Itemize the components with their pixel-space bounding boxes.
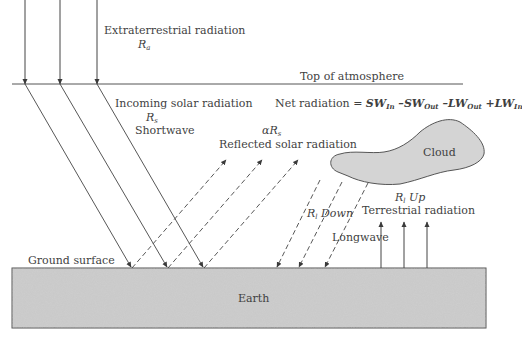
shortwave-label: Shortwave — [135, 124, 195, 137]
reflected-solar-arrows — [132, 160, 298, 268]
top-of-atmosphere-label: Top of atmosphere — [300, 70, 404, 83]
terrestrial-label: Terrestrial radiation — [362, 204, 475, 217]
extraterrestrial-arrows — [25, 0, 97, 84]
incoming-solar-label: Incoming solar radiation — [115, 97, 252, 110]
cloud-label: Cloud — [423, 146, 456, 159]
ground-surface-label: Ground surface — [28, 254, 115, 267]
cloud-shape — [331, 120, 484, 185]
extraterrestrial-label: Extraterrestrial radiation — [104, 24, 245, 37]
earth-label: Earth — [238, 292, 269, 305]
ra-symbol: Ra — [138, 38, 150, 55]
terrestrial-up-arrows — [381, 222, 427, 268]
net-radiation-equation: Net radiation = SWIn –SWOut –LWOut +LWIn — [275, 97, 522, 113]
incoming-solar-arrows — [25, 84, 203, 267]
rl-down-label: Rl Down — [307, 207, 353, 224]
longwave-label: Longwave — [332, 231, 389, 244]
reflected-solar-label: Reflected solar radiation — [219, 138, 357, 151]
